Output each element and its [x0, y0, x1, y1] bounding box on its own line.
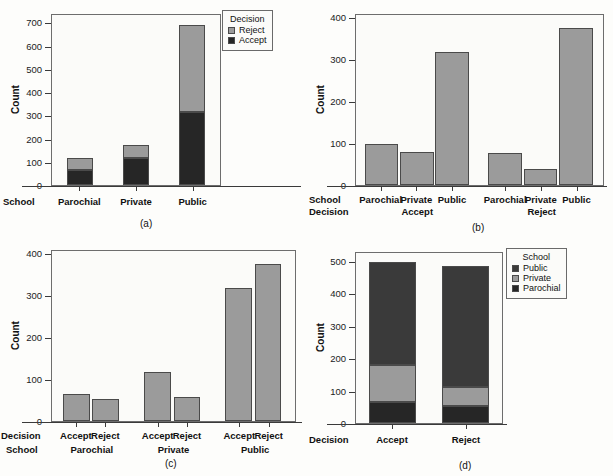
x-axis-tick [392, 424, 393, 429]
panel-a-row-label-school: School [3, 196, 35, 207]
bar [255, 264, 282, 421]
x-axis-tick [505, 186, 506, 191]
y-axis-tick-label: 200 [26, 333, 42, 343]
legend-item: Private [512, 274, 561, 283]
x-axis-group-label: Accept [372, 206, 462, 217]
stacked-bar [123, 145, 148, 185]
y-axis-tick-label: 300 [330, 322, 346, 332]
x-axis-tick-label: Reject [224, 430, 314, 441]
bar [144, 372, 171, 421]
y-axis-tick [349, 18, 355, 19]
x-axis-tick-label: Public [532, 194, 613, 205]
y-axis-tick-label: 500 [26, 65, 42, 75]
legend-title: School [512, 252, 561, 262]
legend-label-private: Private [523, 274, 551, 283]
y-axis-tick-label: 200 [330, 354, 346, 364]
panel-b-row-label-decision: Decision [309, 206, 349, 217]
y-axis-tick [349, 60, 355, 61]
legend-label-public: Public [523, 264, 548, 273]
bar-segment [179, 112, 204, 186]
x-axis-tick [105, 422, 106, 427]
panel-d-y-axis-label: Count [315, 315, 326, 361]
x-axis-tick-label: Reject [421, 434, 511, 445]
x-axis-tick-label: Public [148, 196, 238, 207]
legend-item: Public [512, 264, 561, 273]
legend-label-parochial: Parochial [523, 284, 561, 293]
y-axis-tick-label: 300 [26, 291, 42, 301]
stacked-bar [369, 262, 416, 423]
panel-d-row-label-decision: Decision [309, 434, 349, 445]
x-axis-tick [79, 186, 80, 191]
panel-b-y-axis-label: Count [315, 77, 326, 123]
bar-segment [369, 402, 416, 423]
panel-c-y-axis: 0100200300400 [0, 250, 51, 422]
x-axis-tick [381, 186, 382, 191]
y-axis-tick [349, 327, 355, 328]
bar [524, 169, 558, 185]
y-axis-tick [349, 392, 355, 393]
panel-d-baseline [327, 424, 507, 425]
y-axis-tick [45, 296, 51, 297]
y-axis-tick-label: 100 [26, 158, 42, 168]
y-axis-tick [349, 262, 355, 263]
y-axis-tick-label: 300 [26, 111, 42, 121]
y-axis-tick-label: 400 [26, 88, 42, 98]
panel-d: 0100200300400500 Count Decision AcceptRe… [307, 238, 613, 476]
legend-swatch-parochial [512, 285, 519, 292]
panel-b: 0100200300400 Count School Decision Paro… [307, 0, 613, 238]
panel-c-plot-area [51, 250, 296, 422]
y-axis-tick [45, 116, 51, 117]
bar-segment [442, 387, 489, 406]
panel-b-caption: (b) [472, 222, 484, 233]
y-axis-tick-label: 400 [330, 289, 346, 299]
legend-swatch-private [512, 275, 519, 282]
y-axis-tick [349, 359, 355, 360]
y-axis-tick [45, 254, 51, 255]
x-axis-group-label: Parochial [47, 444, 137, 455]
y-axis-tick [45, 163, 51, 164]
x-axis-tick [577, 186, 578, 191]
y-axis-tick [45, 338, 51, 339]
x-axis-tick [187, 422, 188, 427]
bar-segment [442, 406, 489, 423]
x-axis-tick [416, 186, 417, 191]
y-axis-tick-label: 200 [26, 135, 42, 145]
x-axis-tick [239, 422, 240, 427]
y-axis-tick [45, 380, 51, 381]
y-axis-tick-label: 700 [26, 18, 42, 28]
panel-a-y-axis-label: Count [10, 77, 21, 123]
y-axis-tick [349, 294, 355, 295]
bar-segment [179, 25, 204, 112]
legend-label-reject: Reject [239, 26, 265, 35]
y-axis-tick [45, 23, 51, 24]
legend-item: Reject [228, 26, 267, 35]
bar [63, 394, 90, 421]
bar-segment [442, 266, 489, 387]
bar-segment [67, 158, 92, 170]
legend-title: Decision [228, 14, 267, 24]
bar-segment [369, 262, 416, 365]
bar-segment [123, 145, 148, 158]
stacked-bar [67, 158, 92, 185]
legend-item: Accept [228, 36, 267, 45]
panel-c-y-axis-label: Count [10, 313, 21, 359]
bar-segment [123, 158, 148, 185]
y-axis-tick [45, 140, 51, 141]
x-axis-tick [158, 422, 159, 427]
panel-d-plot-area [355, 252, 503, 424]
x-axis-group-label: Public [210, 444, 300, 455]
panel-a-bars [52, 15, 220, 185]
x-axis-tick [466, 424, 467, 429]
bar-segment [67, 170, 92, 185]
panel-a-baseline [22, 186, 301, 187]
x-axis-tick [541, 186, 542, 191]
panel-d-bars [356, 253, 502, 423]
legend-swatch-public [512, 265, 519, 272]
y-axis-tick-label: 600 [26, 42, 42, 52]
panel-c-row-label-school: School [6, 444, 38, 455]
panel-a-plot-area [51, 14, 221, 186]
bar [435, 52, 469, 185]
panel-a: 0100200300400500600700 Count School Paro… [0, 0, 306, 238]
panel-b-baseline [327, 186, 607, 187]
x-axis-group-label: Private [129, 444, 219, 455]
